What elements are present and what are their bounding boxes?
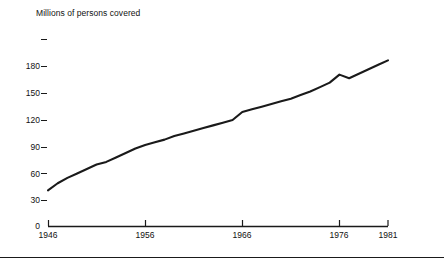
x-tick-mark-group (49, 220, 389, 226)
x-tick-label-1946: 1946 (28, 231, 68, 240)
data-line-persons-covered (48, 60, 388, 190)
x-tick-label-1966: 1966 (222, 231, 262, 240)
plot-area (0, 0, 444, 266)
x-tick-label-1981: 1981 (368, 231, 408, 240)
x-tick-label-1956: 1956 (125, 231, 165, 240)
chart-figure: Millions of persons covered 180 150 120 … (0, 0, 444, 266)
x-tick-label-1976: 1976 (319, 231, 359, 240)
figure-bottom-rule (0, 257, 444, 258)
